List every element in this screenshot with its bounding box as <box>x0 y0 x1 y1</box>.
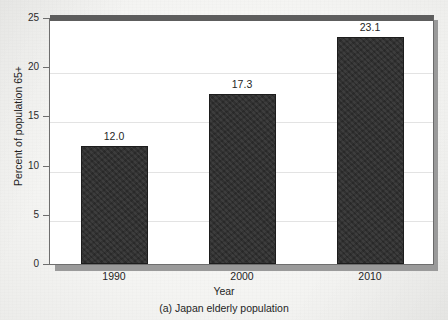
y-tick-mark <box>43 166 49 167</box>
y-tick-mark <box>43 116 49 117</box>
y-tick-mark <box>43 18 49 19</box>
y-tick-label: 5 <box>0 210 39 220</box>
bar-value-label: 17.3 <box>202 79 282 90</box>
y-tick-mark <box>43 67 49 68</box>
bar-chart-figure: 2520151050 12.017.323.1 199020002010 Per… <box>0 0 448 320</box>
y-tick-mark <box>43 264 49 265</box>
bar-2010[interactable] <box>337 37 404 264</box>
x-tick-label: 2010 <box>330 270 410 282</box>
bar-1990[interactable] <box>81 146 148 264</box>
bar-value-label: 23.1 <box>330 22 410 33</box>
y-axis-title: Percent of population 65+ <box>12 46 24 206</box>
x-tick-label: 2000 <box>202 270 282 282</box>
bar-value-label: 12.0 <box>74 131 154 142</box>
x-axis-spine <box>49 264 434 265</box>
y-tick-label: 25 <box>0 13 39 23</box>
figure-caption: (a) Japan elderly population <box>0 302 448 314</box>
bar-2000[interactable] <box>209 94 276 264</box>
y-tick-mark <box>43 215 49 216</box>
y-tick-label: 0 <box>0 259 39 269</box>
x-tick-label: 1990 <box>74 270 154 282</box>
x-axis-title: Year <box>0 285 448 297</box>
y-axis-spine <box>49 18 50 265</box>
